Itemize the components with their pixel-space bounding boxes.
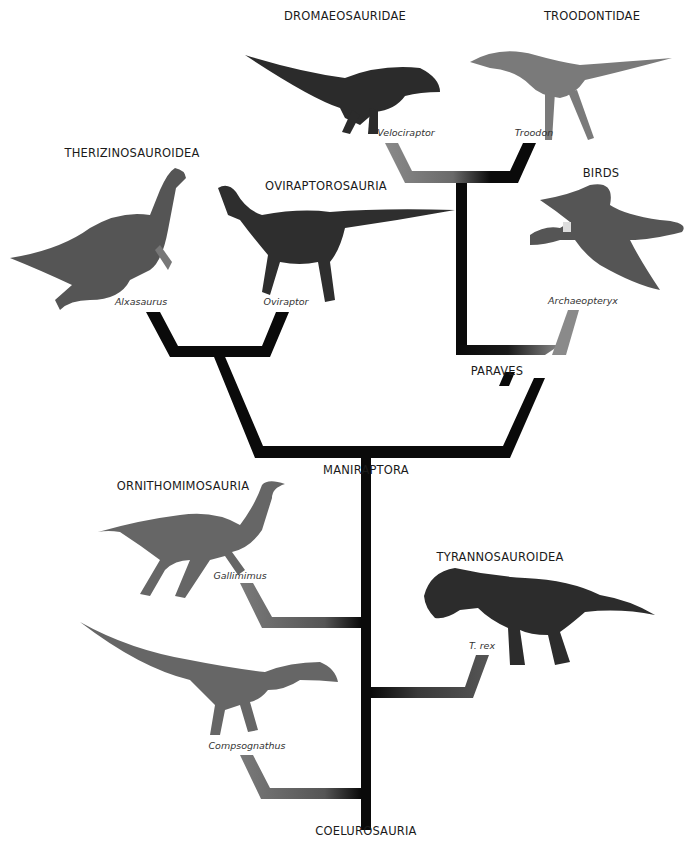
dromaeo-troodon-branch <box>385 143 536 183</box>
clade-label-ornithomimosauria: ORNITHOMIMOSAURIA <box>117 479 250 493</box>
taxon-label-troodon: Troodon <box>515 127 553 138</box>
branch-lines <box>0 0 698 853</box>
clade-label-tyrannosauroidea: TYRANNOSAUROIDEA <box>436 550 563 564</box>
taxon-label-velociraptor: Velociraptor <box>377 127 434 138</box>
taxon-label-alxasaurus: Alxasaurus <box>115 296 167 307</box>
tyrannosauroidea-branch <box>371 655 489 698</box>
clade-label-oviraptorosauria: OVIRAPTOROSAURIA <box>265 179 387 193</box>
archaeopteryx-illustration <box>530 184 684 290</box>
therizino-ovirapto-branch <box>146 312 289 357</box>
taxon-label-compsognathus: Compsognathus <box>208 740 285 751</box>
taxon-label-t-rex: T. rex <box>469 640 495 651</box>
node-label-maniraptora: MANIRAPTORA <box>323 463 409 477</box>
clade-label-troodontidae: TROODONTIDAE <box>544 9 640 23</box>
taxon-label-gallimimus: Gallimimus <box>213 570 266 581</box>
ornithomimosauria-branch <box>240 583 361 628</box>
node-label-paraves: PARAVES <box>471 364 524 378</box>
clade-label-therizinosauroidea: THERIZINOSAUROIDEA <box>64 146 199 160</box>
taxon-label-oviraptor: Oviraptor <box>264 296 309 307</box>
trunk <box>361 458 371 830</box>
velociraptor-illustration <box>245 55 440 134</box>
alxasaurus-illustration <box>10 168 186 310</box>
clade-label-dromaeosauridae: DROMAEOSAURIDAE <box>284 9 406 23</box>
troodon-illustration <box>470 51 672 140</box>
trex-illustration <box>424 568 655 665</box>
taxon-label-archaeopteryx: Archaeopteryx <box>548 295 618 306</box>
compsognathus-illustration <box>80 622 338 735</box>
oviraptor-illustration <box>218 186 455 302</box>
cladogram: DROMAEOSAURIDAE TROODONTIDAE THERIZINOSA… <box>0 0 698 853</box>
clade-label-birds: BIRDS <box>583 166 619 180</box>
compsognathus-branch <box>240 755 361 799</box>
root-label-coelurosauria: COELUROSAURIA <box>315 824 416 838</box>
